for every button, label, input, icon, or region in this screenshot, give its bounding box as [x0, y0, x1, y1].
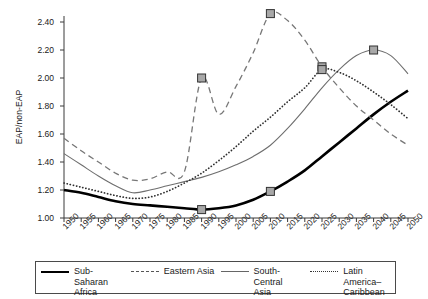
legend-label: Sub-Saharan Africa — [74, 266, 126, 298]
series-line — [64, 91, 408, 210]
plot-area — [0, 0, 428, 299]
data-point-marker — [370, 46, 378, 54]
chart-figure: EAP/non-EAP 1.001.201.401.601.802.002.20… — [0, 0, 428, 299]
data-point-marker — [266, 10, 274, 18]
legend-swatch-icon — [130, 266, 160, 277]
legend-swatch-icon — [309, 266, 339, 277]
legend-label: South-Central Asia — [254, 266, 306, 298]
legend-item: Latin America– Caribbean — [305, 266, 395, 298]
data-point-marker — [266, 187, 274, 195]
legend-item: Sub-Saharan Africa — [36, 266, 126, 298]
chart-legend: Sub-Saharan AfricaEastern AsiaSouth-Cent… — [35, 261, 396, 294]
data-series-group — [64, 12, 408, 210]
legend-swatch-icon — [40, 266, 70, 277]
data-point-marker — [198, 206, 206, 214]
series-line — [64, 12, 408, 181]
legend-item: Eastern Asia — [126, 266, 216, 277]
legend-item: South-Central Asia — [216, 266, 306, 298]
series-line — [64, 50, 408, 193]
data-point-marker — [198, 74, 206, 82]
axis-lines — [60, 16, 414, 222]
legend-label: Eastern Asia — [164, 266, 215, 277]
series-line — [64, 69, 408, 199]
legend-label: Latin America– Caribbean — [343, 266, 395, 298]
legend-swatch-icon — [220, 266, 250, 277]
data-point-marker — [318, 66, 326, 74]
